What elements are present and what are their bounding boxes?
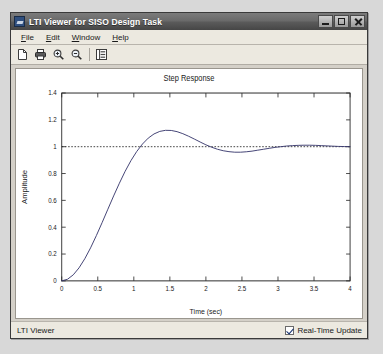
matlab-lti-icon bbox=[14, 16, 25, 27]
new-document-button[interactable] bbox=[14, 47, 31, 63]
menu-item-window[interactable]: Window bbox=[66, 33, 106, 42]
window-title: LTI Viewer for SISO Design Task bbox=[29, 17, 317, 27]
y-tick-label: 0.4 bbox=[48, 223, 57, 230]
step-response-plot-panel[interactable]: Step Response00.511.522.533.5400.20.40.6… bbox=[15, 68, 363, 319]
y-tick-label: 0.2 bbox=[48, 250, 57, 257]
y-tick-label: 0.6 bbox=[48, 196, 57, 203]
title-bar[interactable]: LTI Viewer for SISO Design Task bbox=[11, 13, 367, 30]
y-tick-label: 0.8 bbox=[48, 170, 57, 177]
maximize-button[interactable] bbox=[334, 15, 349, 28]
lti-viewer-window: LTI Viewer for SISO Design Task FileEdit… bbox=[10, 12, 368, 339]
x-tick-label: 1.5 bbox=[166, 284, 175, 291]
toolbar bbox=[11, 45, 367, 65]
zoom-in-icon bbox=[52, 48, 65, 61]
x-axis-label: Time (sec) bbox=[190, 306, 223, 315]
chart-title: Step Response bbox=[164, 74, 215, 83]
y-tick-label: 1 bbox=[53, 143, 57, 150]
print-button[interactable] bbox=[32, 47, 49, 63]
y-tick-label: 1.4 bbox=[48, 89, 57, 96]
print-icon bbox=[34, 48, 47, 61]
realtime-update-control[interactable]: Real-Time Update bbox=[285, 326, 362, 335]
properties-icon bbox=[95, 48, 108, 61]
menu-item-file[interactable]: File bbox=[15, 33, 40, 42]
menu-item-edit[interactable]: Edit bbox=[40, 33, 66, 42]
x-tick-label: 4 bbox=[348, 284, 352, 291]
step-response-chart: Step Response00.511.522.533.5400.20.40.6… bbox=[16, 69, 362, 318]
plot-frame bbox=[62, 93, 350, 281]
minimize-button[interactable] bbox=[318, 15, 333, 28]
zoom-in-button[interactable] bbox=[50, 47, 67, 63]
x-tick-label: 3.5 bbox=[310, 284, 319, 291]
y-tick-label: 0 bbox=[53, 277, 57, 284]
toolbar-separator bbox=[89, 48, 90, 61]
status-bar: LTI Viewer Real-Time Update bbox=[11, 321, 367, 338]
x-tick-label: 0 bbox=[60, 284, 64, 291]
new-document-icon bbox=[16, 48, 29, 61]
x-tick-label: 2.5 bbox=[238, 284, 247, 291]
y-axis-label: Amplitude bbox=[20, 170, 29, 204]
x-tick-label: 0.5 bbox=[93, 284, 102, 291]
x-tick-label: 3 bbox=[276, 284, 280, 291]
realtime-update-label: Real-Time Update bbox=[297, 326, 362, 335]
properties-button[interactable] bbox=[93, 47, 110, 63]
zoom-out-button[interactable] bbox=[68, 47, 85, 63]
x-tick-label: 2 bbox=[204, 284, 208, 291]
realtime-update-checkbox[interactable] bbox=[285, 326, 294, 335]
status-text: LTI Viewer bbox=[17, 326, 55, 335]
menu-bar: FileEditWindowHelp bbox=[11, 30, 367, 45]
y-tick-label: 1.2 bbox=[48, 116, 57, 123]
close-button[interactable] bbox=[350, 15, 365, 28]
x-tick-label: 1 bbox=[132, 284, 136, 291]
zoom-out-icon bbox=[70, 48, 83, 61]
menu-item-help[interactable]: Help bbox=[106, 33, 134, 42]
